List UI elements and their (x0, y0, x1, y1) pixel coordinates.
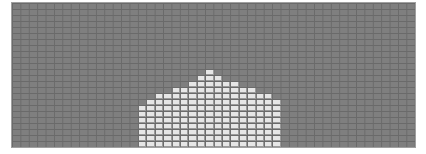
filled-cell[interactable] (273, 130, 280, 135)
filled-cell[interactable] (231, 124, 238, 129)
filled-cell[interactable] (240, 136, 247, 141)
filled-cell[interactable] (156, 124, 163, 129)
filled-cell[interactable] (240, 112, 247, 117)
filled-cell[interactable] (206, 136, 213, 141)
filled-cell[interactable] (206, 76, 213, 81)
filled-cell[interactable] (231, 142, 238, 147)
filled-cell[interactable] (147, 118, 154, 123)
filled-cell[interactable] (248, 94, 255, 99)
filled-cell[interactable] (215, 76, 222, 81)
filled-cell[interactable] (181, 100, 188, 105)
filled-cell[interactable] (164, 112, 171, 117)
filled-cell[interactable] (265, 142, 272, 147)
filled-cell[interactable] (189, 130, 196, 135)
filled-cell[interactable] (139, 124, 146, 129)
filled-cell[interactable] (248, 88, 255, 93)
filled-cell[interactable] (257, 106, 264, 111)
filled-cell[interactable] (206, 88, 213, 93)
filled-cell[interactable] (198, 142, 205, 147)
filled-cell[interactable] (215, 124, 222, 129)
filled-cell[interactable] (240, 100, 247, 105)
filled-cell[interactable] (173, 106, 180, 111)
filled-cell[interactable] (173, 130, 180, 135)
filled-cell[interactable] (173, 112, 180, 117)
filled-cell[interactable] (164, 94, 171, 99)
filled-cell[interactable] (265, 100, 272, 105)
filled-cell[interactable] (231, 112, 238, 117)
filled-cell[interactable] (273, 100, 280, 105)
filled-cell[interactable] (223, 88, 230, 93)
filled-cell[interactable] (240, 106, 247, 111)
filled-cell[interactable] (198, 100, 205, 105)
filled-cell[interactable] (273, 112, 280, 117)
filled-cell[interactable] (215, 118, 222, 123)
filled-cell[interactable] (231, 130, 238, 135)
filled-cell[interactable] (156, 130, 163, 135)
filled-cell[interactable] (198, 106, 205, 111)
filled-cell[interactable] (164, 100, 171, 105)
filled-cell[interactable] (198, 94, 205, 99)
filled-cell[interactable] (215, 136, 222, 141)
filled-cell[interactable] (215, 106, 222, 111)
filled-cell[interactable] (189, 112, 196, 117)
filled-cell[interactable] (206, 130, 213, 135)
filled-cell[interactable] (223, 124, 230, 129)
filled-cell[interactable] (248, 112, 255, 117)
filled-cell[interactable] (173, 124, 180, 129)
filled-cell[interactable] (147, 112, 154, 117)
filled-cell[interactable] (215, 94, 222, 99)
filled-cell[interactable] (189, 82, 196, 87)
filled-cell[interactable] (273, 142, 280, 147)
filled-cell[interactable] (215, 88, 222, 93)
filled-cell[interactable] (156, 142, 163, 147)
pixel-grid[interactable] (12, 3, 415, 147)
filled-cell[interactable] (164, 118, 171, 123)
filled-cell[interactable] (181, 130, 188, 135)
filled-cell[interactable] (189, 94, 196, 99)
filled-cell[interactable] (265, 136, 272, 141)
filled-cell[interactable] (181, 124, 188, 129)
filled-cell[interactable] (231, 136, 238, 141)
filled-cell[interactable] (206, 118, 213, 123)
filled-cell[interactable] (223, 112, 230, 117)
filled-cell[interactable] (198, 118, 205, 123)
filled-cell[interactable] (189, 124, 196, 129)
filled-cell[interactable] (139, 130, 146, 135)
filled-cell[interactable] (248, 100, 255, 105)
filled-cell[interactable] (198, 136, 205, 141)
filled-cell[interactable] (189, 142, 196, 147)
filled-cell[interactable] (265, 124, 272, 129)
filled-cell[interactable] (139, 106, 146, 111)
filled-cell[interactable] (273, 118, 280, 123)
filled-cell[interactable] (156, 106, 163, 111)
filled-cell[interactable] (248, 118, 255, 123)
filled-cell[interactable] (223, 136, 230, 141)
filled-cell[interactable] (265, 112, 272, 117)
filled-cell[interactable] (257, 130, 264, 135)
filled-cell[interactable] (173, 142, 180, 147)
filled-cell[interactable] (257, 124, 264, 129)
filled-cell[interactable] (257, 94, 264, 99)
filled-cell[interactable] (206, 94, 213, 99)
filled-cell[interactable] (257, 112, 264, 117)
filled-cell[interactable] (206, 124, 213, 129)
filled-cell[interactable] (181, 88, 188, 93)
filled-cell[interactable] (173, 94, 180, 99)
filled-cell[interactable] (206, 70, 213, 75)
filled-cell[interactable] (164, 136, 171, 141)
filled-cell[interactable] (198, 124, 205, 129)
filled-cell[interactable] (223, 130, 230, 135)
filled-cell[interactable] (273, 106, 280, 111)
filled-cell[interactable] (156, 112, 163, 117)
filled-cell[interactable] (215, 112, 222, 117)
filled-cell[interactable] (240, 130, 247, 135)
filled-cell[interactable] (265, 130, 272, 135)
filled-cell[interactable] (257, 100, 264, 105)
filled-cell[interactable] (240, 142, 247, 147)
filled-cell[interactable] (231, 88, 238, 93)
filled-cell[interactable] (147, 142, 154, 147)
filled-cell[interactable] (248, 130, 255, 135)
filled-cell[interactable] (139, 136, 146, 141)
filled-cell[interactable] (198, 112, 205, 117)
filled-cell[interactable] (147, 124, 154, 129)
